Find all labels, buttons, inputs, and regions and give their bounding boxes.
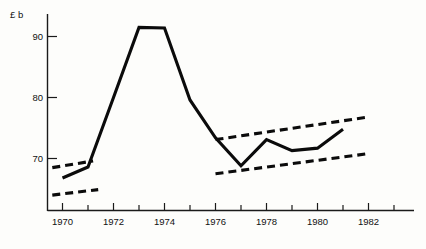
y-axis-tick-labels: 90 80 70: [32, 31, 43, 164]
x-tick-label-1974: 1974: [154, 216, 175, 227]
trend-line-late-upper: [216, 117, 369, 140]
chart-container: £ b 90 80 70: [0, 0, 426, 249]
x-tick-label-1982: 1982: [358, 216, 379, 227]
trend-line-early-lower: [52, 190, 98, 195]
x-tick-label-1970: 1970: [52, 216, 73, 227]
y-axis-unit-label: £ b: [10, 9, 23, 20]
line-chart: £ b 90 80 70: [0, 0, 426, 249]
y-axis-ticks: [48, 37, 58, 159]
x-tick-label-1976: 1976: [205, 216, 226, 227]
y-tick-label-70: 70: [32, 153, 43, 164]
x-tick-label-1980: 1980: [307, 216, 328, 227]
x-axis-tick-labels: 1970 1972 1974 1976 1978 1980 1982: [52, 216, 379, 227]
x-tick-label-1978: 1978: [256, 216, 277, 227]
y-tick-label-80: 80: [32, 92, 43, 103]
x-axis-ticks: [63, 203, 395, 211]
x-tick-label-1972: 1972: [103, 216, 124, 227]
series-line-main: [63, 27, 344, 178]
y-tick-label-90: 90: [32, 31, 43, 42]
